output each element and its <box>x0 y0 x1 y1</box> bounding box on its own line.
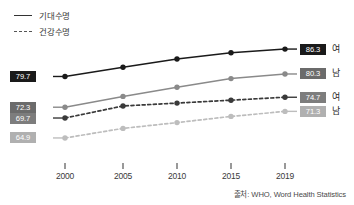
series-line-3 <box>65 111 285 138</box>
gender-label-female-life: 여 <box>332 44 340 55</box>
data-point <box>120 65 125 70</box>
source-note: 출처: WHO, Word Health Statistics <box>234 188 346 199</box>
right-value-chip-female-healthy: 74.7 <box>300 92 326 103</box>
data-point <box>120 94 125 99</box>
data-point <box>120 103 125 108</box>
gender-label-female-healthy: 여 <box>332 92 340 103</box>
x-axis-label-2015: 2015 <box>211 171 251 181</box>
x-axis-label-2019: 2019 <box>265 171 305 181</box>
data-point <box>228 76 233 81</box>
gender-label-male-healthy: 남 <box>332 106 340 117</box>
data-point <box>174 120 179 125</box>
data-point <box>174 100 179 105</box>
x-axis-label-2005: 2005 <box>103 171 143 181</box>
left-value-chip-female-life: 79.7 <box>10 71 36 82</box>
right-value-chip-male-healthy: 71.3 <box>300 106 326 117</box>
data-point <box>228 98 233 103</box>
x-axis-label-2000: 2000 <box>45 171 85 181</box>
left-value-chip-female-healthy: 69.7 <box>10 113 36 124</box>
gender-label-male-life: 남 <box>332 68 340 79</box>
right-value-chip-female-life: 86.3 <box>300 44 326 55</box>
series-layer <box>53 46 297 140</box>
data-point <box>174 85 179 90</box>
data-point <box>174 56 179 61</box>
data-point <box>228 114 233 119</box>
axis-tick-layer <box>65 163 285 169</box>
x-axis-label-2010: 2010 <box>157 171 197 181</box>
right-value-chip-male-life: 80.3 <box>300 68 326 79</box>
left-value-chip-male-life: 72.3 <box>10 102 36 113</box>
series-line-0 <box>65 49 285 76</box>
left-value-chip-male-healthy: 64.9 <box>10 132 36 143</box>
data-point <box>228 50 233 55</box>
life-expectancy-chart: 기대수명 건강수명 79.7 72.3 69.7 64.9 86.3 80.3 … <box>0 0 354 205</box>
data-point <box>120 126 125 131</box>
